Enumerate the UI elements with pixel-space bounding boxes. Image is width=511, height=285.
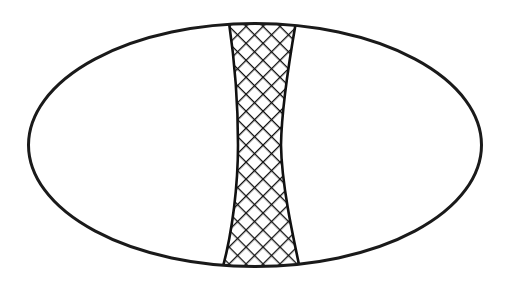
figure-container bbox=[0, 0, 511, 285]
ellipse-hatched-band-figure bbox=[0, 0, 511, 285]
